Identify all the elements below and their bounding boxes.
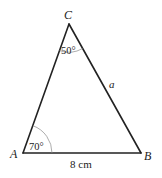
vertex-label-b: B (144, 149, 152, 163)
vertex-label-c: C (64, 8, 73, 22)
side-label-ab: 8 cm (70, 158, 92, 170)
side-bc (69, 24, 141, 153)
angle-label-a: 70° (29, 141, 44, 152)
angle-label-c: 50° (61, 45, 76, 56)
vertex-label-a: A (9, 147, 18, 161)
side-ca (23, 24, 69, 153)
triangle-diagram: C A B 50° 70° a 8 cm (0, 0, 162, 178)
side-label-a: a (109, 78, 115, 90)
